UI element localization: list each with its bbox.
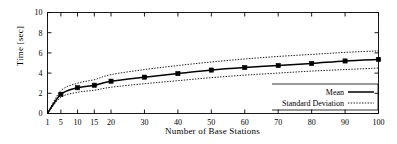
data-point-marker — [376, 57, 380, 61]
x-tick-label: 20 — [107, 118, 115, 127]
y-tick-label: 4 — [39, 69, 43, 78]
y-tick-label: 10 — [35, 8, 43, 17]
data-point-marker — [109, 79, 113, 83]
x-tick-label: 90 — [341, 118, 349, 127]
x-tick-label: 5 — [59, 118, 63, 127]
data-point-marker — [343, 59, 347, 63]
data-point-marker — [92, 83, 96, 87]
x-tick-label: 50 — [207, 118, 215, 127]
y-tick-label: 6 — [39, 49, 43, 58]
y-tick-label: 2 — [39, 89, 43, 98]
x-tick-label: 80 — [308, 118, 316, 127]
x-tick-label: 60 — [241, 118, 249, 127]
x-tick-label: 40 — [174, 118, 182, 127]
data-point-marker — [310, 61, 314, 65]
data-point-marker — [243, 65, 247, 69]
x-tick-label: 30 — [140, 118, 148, 127]
data-point-marker — [142, 75, 146, 79]
data-point-marker — [176, 72, 180, 76]
y-tick-label: 8 — [39, 29, 43, 38]
chart-legend: MeanStandard Deviation — [272, 84, 378, 110]
x-tick-label: 10 — [74, 118, 82, 127]
x-tick-label: 70 — [274, 118, 282, 127]
legend-label: Mean — [326, 88, 344, 97]
x-tick-label: 15 — [90, 118, 98, 127]
data-point-marker — [75, 86, 79, 90]
plot-area: 0246810 1510152030405060708090100 MeanSt… — [0, 0, 397, 144]
x-tick-label: 100 — [373, 118, 385, 127]
data-point-marker — [276, 63, 280, 67]
x-tick-label: 1 — [46, 118, 50, 127]
y-tick-label: 0 — [39, 109, 43, 118]
legend-label: Standard Deviation — [282, 99, 344, 108]
chart-figure: Time [sec] Number of Base Stations 02468… — [0, 0, 397, 144]
data-point-marker — [209, 68, 213, 72]
